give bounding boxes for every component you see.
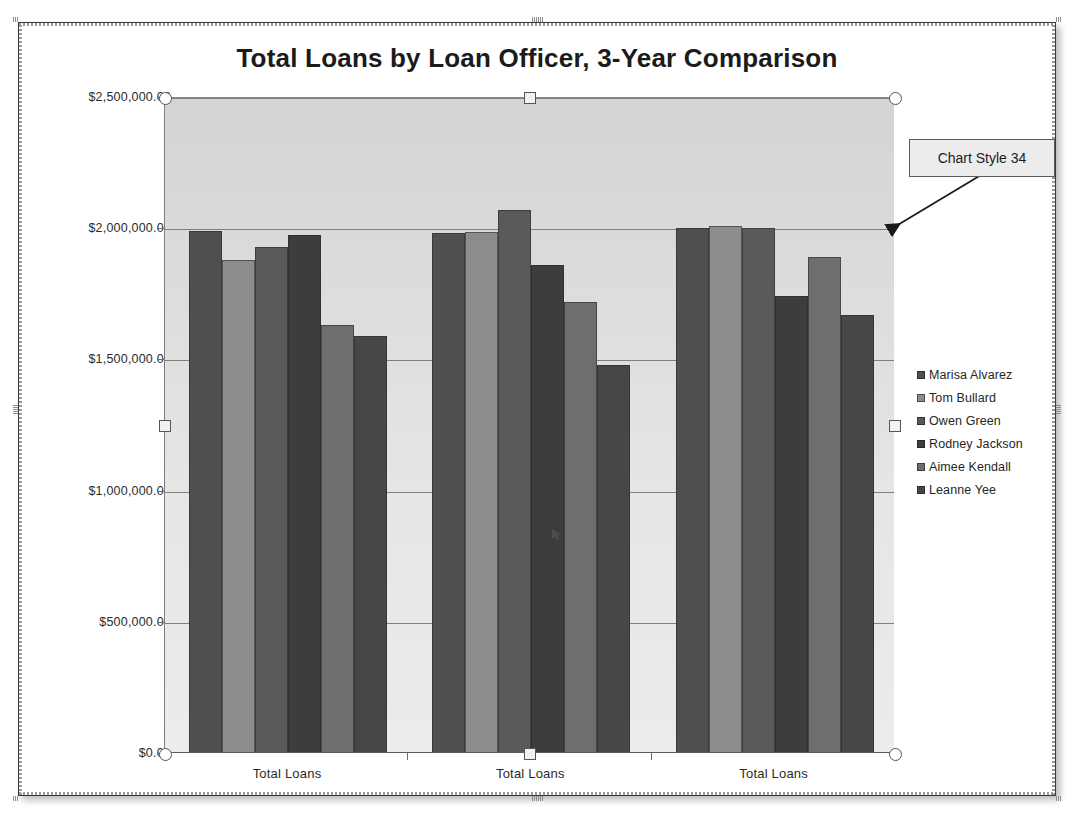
- object-handle-right[interactable]: [1056, 404, 1061, 415]
- legend-item-label: Aimee Kendall: [929, 460, 1011, 474]
- legend-item[interactable]: Tom Bullard: [917, 391, 1052, 405]
- legend-swatch-icon: [917, 486, 925, 494]
- object-handle-top-left[interactable]: [13, 17, 18, 22]
- chart-title[interactable]: Total Loans by Loan Officer, 3-Year Comp…: [19, 43, 1055, 74]
- y-axis-tick-mark: [157, 491, 164, 492]
- bar[interactable]: [531, 265, 564, 753]
- bar[interactable]: [709, 226, 742, 753]
- object-handle-bottom-left[interactable]: [13, 796, 18, 801]
- legend-item-label: Owen Green: [929, 414, 1001, 428]
- object-handle-top-right[interactable]: [1056, 17, 1061, 22]
- bar[interactable]: [498, 210, 531, 753]
- handle-middle-right[interactable]: [889, 420, 901, 432]
- bar[interactable]: [808, 257, 841, 753]
- handle-top-left[interactable]: [159, 92, 172, 105]
- bar[interactable]: [189, 231, 222, 753]
- y-axis-tick-mark: [157, 359, 164, 360]
- bar[interactable]: [432, 233, 465, 753]
- legend-swatch-icon: [917, 440, 925, 448]
- bar[interactable]: [597, 365, 630, 753]
- bar[interactable]: [564, 302, 597, 753]
- legend-swatch-icon: [917, 463, 925, 471]
- bar[interactable]: [465, 232, 498, 753]
- legend-item[interactable]: Owen Green: [917, 414, 1052, 428]
- bar[interactable]: [742, 228, 775, 753]
- x-axis-category-label: Total Loans: [496, 766, 565, 781]
- bar[interactable]: [288, 235, 321, 753]
- bar[interactable]: [255, 247, 288, 753]
- handle-bottom-center[interactable]: [524, 748, 536, 760]
- object-handle-left[interactable]: [13, 404, 18, 415]
- chart-object[interactable]: Total Loans by Loan Officer, 3-Year Comp…: [18, 22, 1056, 796]
- bar[interactable]: [676, 228, 709, 753]
- legend-item[interactable]: Leanne Yee: [917, 483, 1052, 497]
- legend-swatch-icon: [917, 371, 925, 379]
- legend-item-label: Tom Bullard: [929, 391, 996, 405]
- bar[interactable]: [222, 260, 255, 753]
- x-axis-tick-mark: [651, 753, 652, 760]
- handle-bottom-left[interactable]: [159, 748, 172, 761]
- y-axis-tick-mark: [157, 228, 164, 229]
- legend-item-label: Leanne Yee: [929, 483, 996, 497]
- legend-swatch-icon: [917, 394, 925, 402]
- legend-item[interactable]: Aimee Kendall: [917, 460, 1052, 474]
- handle-middle-left[interactable]: [159, 420, 171, 432]
- legend-swatch-icon: [917, 417, 925, 425]
- handle-bottom-right[interactable]: [889, 748, 902, 761]
- x-axis-category-label: Total Loans: [253, 766, 322, 781]
- legend-item-label: Marisa Alvarez: [929, 368, 1012, 382]
- x-axis-category-label: Total Loans: [739, 766, 808, 781]
- bar[interactable]: [841, 315, 874, 753]
- object-handle-top[interactable]: [532, 17, 543, 22]
- legend-item[interactable]: Marisa Alvarez: [917, 368, 1052, 382]
- x-axis-tick-mark: [407, 753, 408, 760]
- legend-item[interactable]: Rodney Jackson: [917, 437, 1052, 451]
- chart-legend[interactable]: Marisa AlvarezTom BullardOwen GreenRodne…: [917, 368, 1052, 506]
- bar[interactable]: [775, 296, 808, 753]
- callout-label: Chart Style 34: [938, 150, 1027, 166]
- bar[interactable]: [354, 336, 387, 753]
- legend-item-label: Rodney Jackson: [929, 437, 1023, 451]
- plot-area[interactable]: [164, 97, 894, 753]
- chart-style-callout: Chart Style 34: [909, 139, 1055, 177]
- handle-top-right[interactable]: [889, 92, 902, 105]
- handle-top-center[interactable]: [524, 92, 536, 104]
- bar[interactable]: [321, 325, 354, 753]
- object-handle-bottom[interactable]: [532, 796, 543, 801]
- object-handle-bottom-right[interactable]: [1056, 796, 1061, 801]
- y-axis-tick-mark: [157, 622, 164, 623]
